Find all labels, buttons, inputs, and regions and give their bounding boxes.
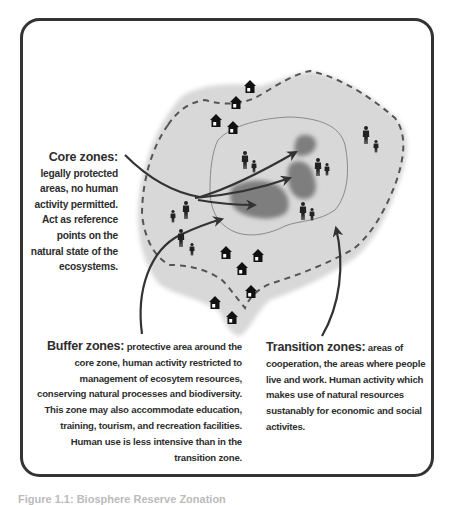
buffer-zone-body: protective area around the core zone, hu… <box>37 341 242 463</box>
buffer-zone-description: Buffer zones: protective area around the… <box>28 339 242 465</box>
transition-zone-body: areas of cooperation, the areas where pe… <box>266 342 425 432</box>
transition-zone-heading: Transition zones: <box>266 340 365 354</box>
core-zone-description: Core zones: legally protected areas, no … <box>30 150 118 275</box>
transition-zone-description: Transition zones: areas of cooperation, … <box>266 340 431 435</box>
figure-caption: Figure 1.1: Biosphere Reserve Zonation <box>18 493 226 505</box>
core-zone-body: legally protected areas, no human activi… <box>31 168 118 273</box>
core-zone-heading: Core zones: <box>49 150 118 164</box>
buffer-zone-heading: Buffer zones: <box>47 339 124 353</box>
